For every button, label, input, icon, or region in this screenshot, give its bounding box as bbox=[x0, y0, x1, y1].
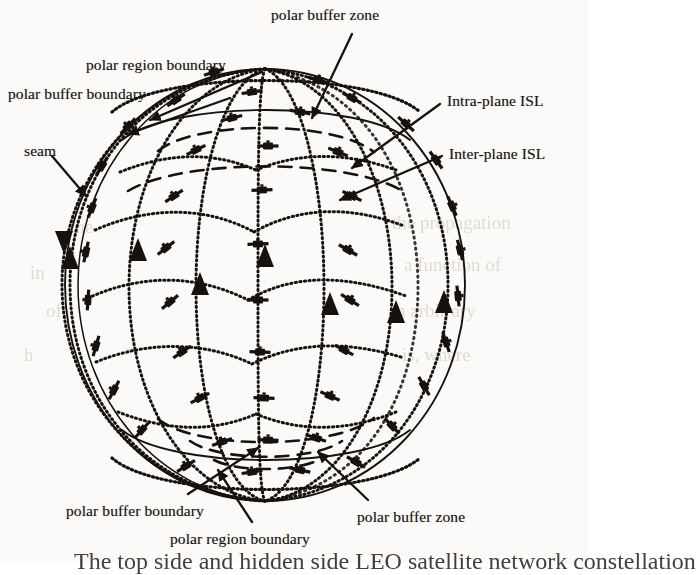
label-polar-buffer-boundary-top: polar buffer boundary bbox=[8, 85, 146, 103]
leader-polar-buffer-zone-bottom bbox=[318, 452, 368, 500]
satellite bbox=[184, 140, 207, 157]
satellite bbox=[427, 148, 447, 170]
satellite bbox=[170, 341, 192, 360]
satellite bbox=[248, 294, 269, 303]
label-polar-region-boundary-top: polar region boundary bbox=[86, 56, 226, 74]
satellite bbox=[249, 346, 270, 356]
satellite bbox=[131, 418, 152, 440]
label-inter-plane-isl: Inter-plane ISL bbox=[449, 145, 545, 163]
satellite bbox=[333, 340, 356, 358]
label-polar-buffer-zone-top: polar buffer zone bbox=[271, 6, 379, 24]
satellite bbox=[319, 387, 342, 404]
satellite bbox=[88, 334, 102, 357]
orbit-plane-7 bbox=[265, 69, 448, 501]
direction-marker-up bbox=[387, 300, 405, 323]
satellite bbox=[158, 291, 180, 311]
inter-plane-isls bbox=[88, 157, 406, 428]
label-seam: seam bbox=[24, 142, 56, 160]
leader-seam bbox=[52, 156, 86, 196]
label-polar-region-boundary-bottom: polar region boundary bbox=[170, 530, 310, 548]
satellite bbox=[162, 185, 184, 204]
satellite bbox=[339, 290, 362, 309]
satellite bbox=[337, 240, 360, 258]
seam-arcs bbox=[62, 69, 265, 501]
polar-region-boundary-south bbox=[112, 458, 420, 490]
label-intra-plane-isl: Intra-plane ISL bbox=[447, 92, 544, 110]
satellites bbox=[78, 63, 468, 476]
satellite bbox=[154, 237, 176, 257]
satellite bbox=[345, 452, 368, 470]
satellite bbox=[253, 392, 274, 402]
satellite bbox=[241, 85, 263, 97]
orbit-plane-1 bbox=[70, 69, 265, 501]
figure-caption: The top side and hidden side LEO satelli… bbox=[74, 548, 696, 575]
satellite bbox=[82, 289, 92, 311]
satellite bbox=[454, 285, 465, 307]
satellite bbox=[251, 184, 272, 194]
satellite bbox=[258, 140, 279, 149]
satellite bbox=[341, 186, 364, 203]
orbit-plane-4 bbox=[258, 69, 265, 501]
satellite bbox=[382, 415, 403, 436]
figure-caption-text: The top side and hidden side LEO satelli… bbox=[74, 548, 696, 574]
label-polar-buffer-zone-bottom: polar buffer zone bbox=[357, 508, 465, 526]
direction-marker-up bbox=[435, 290, 453, 313]
label-polar-buffer-boundary-bottom: polar buffer boundary bbox=[66, 502, 204, 520]
polar-region-boundary-north bbox=[112, 81, 420, 113]
